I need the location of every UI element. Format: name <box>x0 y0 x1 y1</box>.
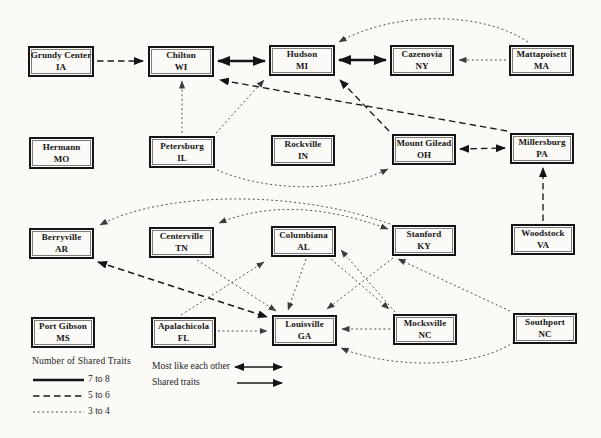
town-state: TN <box>175 243 188 254</box>
node-mount-gilead: Mount GileadOH <box>392 134 456 165</box>
legend-title: Number of Shared Traits <box>32 356 131 366</box>
town-name: Mattapoisett <box>516 49 566 60</box>
edge-apalachicola-columbiana <box>181 262 264 315</box>
node-hudson: HudsonMI <box>269 45 335 76</box>
town-name: Woodstock <box>521 228 564 239</box>
node-louisville: LouisvilleGA <box>272 315 337 346</box>
town-state: AL <box>297 242 310 253</box>
town-state: VA <box>537 240 549 251</box>
town-name: Millersburg <box>518 137 565 148</box>
edge-petersburg-mount-gilead <box>217 169 388 187</box>
node-woodstock: WoodstockVA <box>511 224 575 255</box>
town-name: Rockville <box>285 139 322 150</box>
node-chilton: ChiltonWI <box>148 46 214 77</box>
town-name: Cazenovia <box>402 49 443 60</box>
node-apalachicola: ApalachicolaFL <box>151 317 216 348</box>
town-state: MO <box>54 154 70 165</box>
town-name: Hudson <box>287 49 318 60</box>
legend-most-like-label: Most like each other <box>152 361 230 371</box>
node-southport: SouthportNC <box>513 313 577 344</box>
town-name: Southport <box>525 317 565 328</box>
town-state: IL <box>177 153 187 164</box>
edge-stanford-berryville <box>100 199 390 225</box>
town-name: Stanford <box>407 229 442 240</box>
node-port-gibson: Port GibsonMS <box>31 317 95 348</box>
node-cazenovia: CazenoviaNY <box>390 45 454 76</box>
edge-berryville-louisville <box>98 262 267 317</box>
town-state: MA <box>534 61 549 72</box>
node-centerville: CentervilleTN <box>149 227 214 258</box>
town-name: Apalachicola <box>158 321 209 332</box>
edge-columbiana-louisville <box>288 259 306 310</box>
edge-petersburg-hudson <box>216 80 264 133</box>
node-millersburg: MillersburgPA <box>510 133 574 164</box>
town-state: MS <box>56 333 70 344</box>
town-state: OH <box>417 150 431 161</box>
node-mattapoisett: MattapoisettMA <box>509 45 574 76</box>
town-name: Port Gibson <box>39 321 87 332</box>
node-columbiana: ColumbianaAL <box>271 226 336 257</box>
town-state: NY <box>416 61 429 72</box>
town-name: Louisville <box>285 319 324 330</box>
edge-mount-gilead-hudson <box>340 80 389 131</box>
node-hermann: HermannMO <box>29 137 94 169</box>
town-state: GA <box>298 331 312 342</box>
town-name: Petersburg <box>160 141 204 152</box>
edge-millersburg-chilton <box>220 80 507 131</box>
legend-samples <box>33 367 282 412</box>
town-name: Mount Gilead <box>397 138 452 149</box>
edge-columbiana-mocksville <box>331 259 389 309</box>
town-name: Berryville <box>42 232 81 243</box>
node-mocksville: MocksvilleNC <box>393 314 457 345</box>
edge-southport-louisville <box>341 342 514 363</box>
town-state: KY <box>417 241 431 252</box>
town-name: Chilton <box>166 50 196 61</box>
town-state: MI <box>296 61 308 72</box>
node-stanford: StanfordKY <box>392 225 456 256</box>
legend-label-7-8: 7 to 8 <box>88 374 110 384</box>
town-name: Mocksville <box>404 318 447 329</box>
town-state: WI <box>175 62 188 73</box>
town-name: Centerville <box>160 231 204 242</box>
node-berryville: BerryvilleAR <box>29 228 94 259</box>
edge-southport-stanford <box>398 259 510 311</box>
legend-label-3-4: 3 to 4 <box>88 406 110 416</box>
town-state: AR <box>55 244 68 255</box>
legend-label-5-6: 5 to 6 <box>88 390 110 400</box>
node-grundy-center: Grundy CenterIA <box>28 46 94 77</box>
edge-centerville-louisville <box>197 260 276 311</box>
town-state: FL <box>178 333 190 344</box>
town-state: NC <box>419 330 432 341</box>
shared-traits-diagram: Grundy CenterIAChiltonWIHudsonMICazenovi… <box>0 0 601 438</box>
town-name: Grundy Center <box>31 50 92 61</box>
legend-shared-label: Shared traits <box>152 377 200 387</box>
town-state: IN <box>298 151 308 162</box>
town-state: IA <box>56 62 66 73</box>
node-petersburg: PetersburgIL <box>149 136 215 168</box>
town-state: PA <box>536 149 547 160</box>
edge-mount-gilead-millersburg <box>460 148 505 149</box>
edge-mattapoisett-hudson <box>339 19 528 42</box>
town-name: Columbiana <box>279 230 328 241</box>
edge-mocksville-columbiana <box>341 250 395 312</box>
town-name: Hermann <box>43 142 81 153</box>
town-state: NC <box>539 329 552 340</box>
node-rockville: RockvilleIN <box>271 135 335 166</box>
